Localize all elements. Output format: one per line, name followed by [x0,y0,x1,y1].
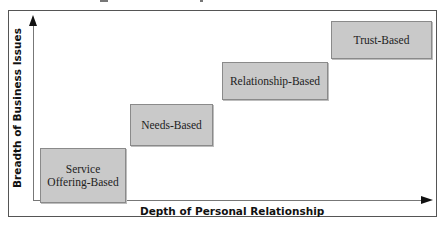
stage-relationship-based: Relationship-Based [222,62,328,100]
arrow-right-icon [421,196,433,204]
stage-label: Trust-Based [354,34,410,47]
stage-trust-based: Trust-Based [331,21,432,59]
x-axis-label: Depth of Personal Relationship [140,205,324,217]
stage-service-offering-based: Service Offering-Based [40,148,126,203]
y-axis-line [33,22,34,200]
stage-label: Needs-Based [141,119,202,132]
stage-label: Relationship-Based [230,75,320,88]
stage-label-line1: Service [47,163,118,176]
stage-needs-based: Needs-Based [130,104,213,146]
y-axis-label: Breadth of Business Issues [11,28,23,188]
cropped-heading-remnant [100,0,350,4]
arrow-up-icon [29,15,37,26]
stage-label-line2: Offering-Based [47,176,118,189]
